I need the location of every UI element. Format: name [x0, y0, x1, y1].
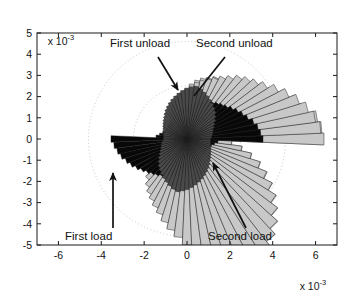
x-tick-label: -6	[54, 249, 63, 261]
y-tick-label: -5	[23, 239, 32, 251]
y-tick-label: -3	[23, 196, 32, 208]
x-tick-label: -2	[139, 249, 148, 261]
y-exponent-prefix: x 10	[48, 35, 68, 47]
annotation-label-first-unload: First unload	[110, 37, 170, 49]
y-axis-exponent-label: x 10-3	[36, 21, 74, 59]
x-tick-label: 2	[227, 249, 233, 261]
y-tick-label: -1	[23, 154, 32, 166]
x-exponent-prefix: x 10	[300, 280, 320, 291]
x-tick-label: 4	[270, 249, 276, 261]
x-tick-label: -4	[97, 249, 106, 261]
y-tick-label: 2	[26, 90, 32, 102]
y-tick-label: -2	[23, 175, 32, 187]
x-tick-label: 6	[313, 249, 319, 261]
x-axis-exponent-label: x 10-3	[288, 266, 326, 291]
x-exponent-power: -3	[320, 278, 327, 287]
y-tick-label: 3	[26, 69, 32, 81]
y-tick-label: 5	[26, 27, 32, 39]
annotation-label-first-load: First load	[65, 230, 112, 242]
y-tick-label: 0	[26, 133, 32, 145]
x-tick-label: 0	[184, 249, 190, 261]
y-exponent-power: -3	[68, 33, 75, 42]
y-tick-label: -4	[23, 218, 32, 230]
polar-rose-figure: -6-4-20246 -5-4-3-2-1012345 First unload…	[0, 0, 356, 291]
annotation-label-second-load: Second load	[208, 230, 272, 242]
y-tick-label: 1	[26, 112, 32, 124]
annotation-label-second-unload: Second unload	[196, 37, 273, 49]
y-tick-label: 4	[26, 48, 32, 60]
